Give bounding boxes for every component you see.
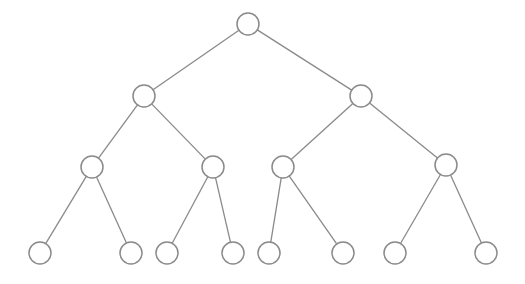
tree-edge-n0-n2	[257, 30, 351, 90]
tree-leaf-node	[222, 242, 244, 264]
tree-node	[350, 85, 372, 107]
tree-edge-n4-n9	[172, 177, 208, 244]
binary-tree-diagram	[0, 0, 525, 284]
tree-edge-n3-n8	[97, 177, 127, 243]
tree-leaf-node	[258, 242, 280, 264]
tree-node	[435, 154, 457, 176]
tree-edge-n1-n4	[152, 104, 206, 159]
tree-edge-n1-n3	[98, 105, 137, 158]
tree-edge-n4-n10	[215, 178, 230, 243]
tree-edge-n2-n5	[291, 103, 353, 159]
edges-layer	[46, 30, 482, 244]
tree-edge-n0-n1	[153, 30, 239, 89]
tree-edge-n5-n11	[271, 178, 281, 242]
tree-leaf-node	[120, 242, 142, 264]
tree-edge-n2-n6	[370, 103, 438, 158]
tree-leaf-node	[332, 242, 354, 264]
nodes-layer	[29, 13, 497, 264]
tree-leaf-node	[475, 242, 497, 264]
tree-node	[272, 156, 294, 178]
tree-edge-n6-n14	[451, 175, 482, 243]
tree-edge-n6-n13	[401, 175, 441, 244]
tree-node	[81, 156, 103, 178]
tree-leaf-node	[29, 242, 51, 264]
tree-edge-n5-n12	[289, 176, 336, 244]
tree-node	[133, 85, 155, 107]
tree-edge-n3-n7	[46, 176, 87, 243]
tree-leaf-node	[384, 242, 406, 264]
tree-leaf-node	[156, 242, 178, 264]
tree-node	[202, 156, 224, 178]
tree-root-node	[237, 13, 259, 35]
